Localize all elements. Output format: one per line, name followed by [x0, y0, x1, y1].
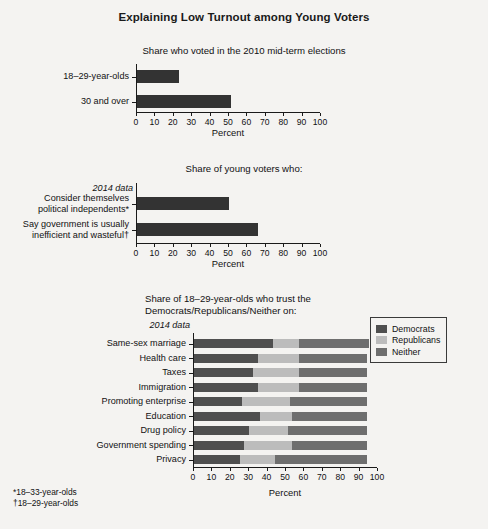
x-axis-tick [193, 468, 194, 471]
x-axis-tick [228, 113, 229, 116]
stacked-bar [194, 441, 378, 450]
category-label: Taxes [26, 367, 186, 378]
x-axis-tick-label: 40 [262, 472, 272, 482]
chart-2-xaxis-title: Percent [136, 258, 320, 269]
footnote-2: †18–29-year-olds [13, 498, 78, 509]
x-axis-tick-label: 60 [242, 248, 252, 258]
x-axis-tick [248, 468, 249, 471]
chart-panel-2: Share of young voters who: 2014 data 010… [0, 163, 488, 273]
figure-title: Explaining Low Turnout among Young Voter… [0, 11, 488, 23]
x-axis-tick [320, 244, 321, 247]
x-axis-tick-label: 60 [242, 117, 252, 127]
x-axis-tick-label: 0 [134, 117, 139, 127]
x-axis-tick-label: 20 [168, 117, 178, 127]
category-tick [132, 77, 136, 78]
bar-segment-democrats [194, 455, 240, 464]
x-axis-tick-label: 90 [354, 472, 364, 482]
x-axis-tick [285, 468, 286, 471]
category-tick [189, 373, 193, 374]
category-label: Health care [26, 353, 186, 364]
category-label: Consider themselves political independen… [0, 193, 129, 214]
x-axis-tick [303, 468, 304, 471]
category-label: Same-sex marriage [26, 338, 186, 349]
x-axis-tick [210, 244, 211, 247]
bar-segment-democrats [194, 383, 258, 392]
x-axis-tick-label: 30 [243, 472, 253, 482]
legend-label: Democrats [392, 324, 435, 334]
bar-segment-democrats [194, 426, 249, 435]
x-axis-tick [191, 113, 192, 116]
x-axis-tick-label: 60 [299, 472, 309, 482]
x-axis-tick [265, 244, 266, 247]
x-axis-tick [154, 244, 155, 247]
category-label: Promoting enterprise [26, 396, 186, 407]
x-axis-tick [173, 244, 174, 247]
figure-footnotes: *18–33-year-olds †18–29-year-olds [13, 487, 78, 508]
bar-segment-neither [292, 412, 367, 421]
x-axis-tick [377, 468, 378, 471]
x-axis-tick-label: 10 [150, 248, 160, 258]
chart-1-plot: 010203040506070809010018–29-year-olds30 … [136, 64, 320, 112]
x-axis-ticks: 0102030405060708090100 [193, 468, 377, 488]
category-label: Privacy [26, 454, 186, 465]
category-tick [189, 402, 193, 403]
bar-segment-republicans [253, 368, 299, 377]
legend-label: Republicans [392, 335, 440, 345]
x-axis-tick [211, 468, 212, 471]
bar-segment-republicans [273, 339, 299, 348]
x-axis-tick-label: 90 [297, 117, 307, 127]
x-axis-tick-label: 10 [150, 117, 160, 127]
category-tick [132, 204, 136, 205]
stacked-bar [194, 383, 378, 392]
legend-item[interactable]: Neither [376, 347, 440, 357]
x-axis-tick [302, 113, 303, 116]
x-axis-tick-label: 70 [260, 117, 270, 127]
x-axis-tick [246, 244, 247, 247]
category-label: Government spending [26, 440, 186, 451]
legend-item[interactable]: Democrats [376, 324, 440, 334]
legend-item[interactable]: Republicans [376, 335, 440, 345]
bar-segment-democrats [194, 397, 242, 406]
x-axis-tick [173, 113, 174, 116]
x-axis-tick-label: 50 [280, 472, 290, 482]
bar-segment-neither [292, 441, 367, 450]
stacked-bar [194, 354, 378, 363]
x-axis-tick [191, 244, 192, 247]
bar-segment-democrats [194, 354, 258, 363]
chart-3-xaxis-title: Percent [193, 487, 377, 498]
x-axis-tick-label: 80 [278, 117, 288, 127]
x-axis-tick-label: 10 [207, 472, 217, 482]
x-axis-tick [228, 244, 229, 247]
category-tick [189, 416, 193, 417]
bar-segment-republicans [258, 354, 298, 363]
x-axis-tick [359, 468, 360, 471]
category-tick [189, 358, 193, 359]
x-axis-tick [283, 244, 284, 247]
chart-3-title: Share of 18–29-year-olds who trust the D… [145, 293, 385, 316]
stacked-bar [194, 412, 378, 421]
legend-label: Neither [392, 347, 420, 357]
x-axis-tick [136, 244, 137, 247]
stacked-bar [194, 455, 378, 464]
x-axis-tick [136, 113, 137, 116]
category-label: Education [26, 411, 186, 422]
x-axis-tick [154, 113, 155, 116]
x-axis-tick-label: 100 [313, 117, 327, 127]
bar-segment-democrats [194, 441, 244, 450]
x-axis-tick [302, 244, 303, 247]
x-axis-tick-label: 80 [335, 472, 345, 482]
stacked-bar [194, 339, 378, 348]
x-axis-tick-label: 100 [370, 472, 384, 482]
x-axis-tick-label: 100 [313, 248, 327, 258]
bar-segment-republicans [244, 441, 292, 450]
chart-1-title: Share who voted in the 2010 mid-term ele… [0, 45, 488, 57]
bar-segment-democrats [194, 368, 253, 377]
category-tick [132, 230, 136, 231]
bar-segment-republicans [242, 397, 290, 406]
bar-segment-neither [299, 368, 367, 377]
bar-segment-neither [290, 397, 367, 406]
chart-2-title: Share of young voters who: [0, 163, 488, 175]
chart-panel-1: Share who voted in the 2010 mid-term ele… [0, 45, 488, 140]
stacked-bar [194, 426, 378, 435]
category-label: 30 and over [0, 96, 129, 107]
